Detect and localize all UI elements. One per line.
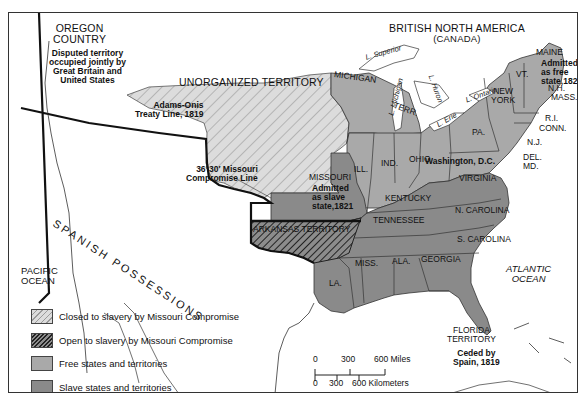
british-line-2: (CANADA) xyxy=(389,34,525,44)
state-label-ala: ALA. xyxy=(392,257,410,266)
missouri-compromise-line-label: 36°30′ Missouri Compromise Line xyxy=(186,165,258,183)
legend-swatch-open xyxy=(31,333,53,348)
washington-dc-label: Washington, D.C. xyxy=(425,157,495,166)
missouri-label: MISSOURI xyxy=(309,173,351,182)
unorganized-territory-label: UNORGANIZED TERRITORY xyxy=(179,77,324,88)
scale-bar: 0 300 600 Miles 0 300 600 Kilometers xyxy=(313,355,433,391)
florida-line-2: TERRITORY xyxy=(447,335,496,344)
state-label-pa: PA. xyxy=(472,128,485,137)
maine-label: MAINE xyxy=(536,48,563,57)
oregon-note: Disputed territory occupied jointly by G… xyxy=(49,49,126,85)
map-legend: Closed to slavery by Missouri Compromise… xyxy=(31,305,239,393)
legend-label: Closed to slavery by Missouri Compromise xyxy=(59,311,239,322)
missouri-note: Admitted as slave state,1821 xyxy=(312,184,353,211)
florida-note-2: Spain, 1819 xyxy=(453,358,500,367)
state-label-conn: CONN. xyxy=(539,124,566,133)
state-label-tennessee: TENNESSEE xyxy=(373,216,425,225)
legend-item-closed: Closed to slavery by Missouri Compromise xyxy=(31,305,239,329)
state-label-nj: N.J. xyxy=(527,138,542,147)
pacific-line-2: OCEAN xyxy=(21,276,58,286)
scale-km-0: 0 xyxy=(313,379,318,388)
state-label-la: LA. xyxy=(329,279,342,288)
maine-note: Admitted as free state,1820 xyxy=(541,59,578,86)
oregon-note-4: United States xyxy=(49,76,126,85)
arkansas-territory-label: ARKANSAS TERRITORY xyxy=(253,225,350,234)
florida-note: Ceded by Spain, 1819 xyxy=(453,349,500,367)
legend-swatch-free xyxy=(31,356,53,371)
state-label-georgia: GEORGIA xyxy=(421,255,461,264)
ny-line-2: YORK xyxy=(491,96,515,105)
adams-onis-2: Treaty Line, 1819 xyxy=(135,110,204,119)
missouri-note-3: state,1821 xyxy=(312,202,353,211)
british-north-america-label: BRITISH NORTH AMERICA (CANADA) xyxy=(389,23,525,44)
oregon-title-2: COUNTRY xyxy=(53,34,106,45)
state-label-vt: VT. xyxy=(516,70,528,79)
legend-swatch-closed xyxy=(31,309,53,324)
atlantic-line-2: OCEAN xyxy=(506,274,551,284)
legend-label: Open to slavery by Missouri Compromise xyxy=(59,335,233,346)
state-label-miss: MISS. xyxy=(355,259,378,268)
state-label-ri: R.I. xyxy=(545,114,558,123)
state-label-virginia: VIRGINIA xyxy=(459,174,496,183)
state-label-s-carolina: S. CAROLINA xyxy=(457,235,511,244)
pacific-ocean-label: PACIFIC OCEAN xyxy=(21,266,58,286)
map-frame: OREGON COUNTRY Disputed territory occupi… xyxy=(8,12,578,393)
compromise-line-2: Compromise Line xyxy=(186,174,258,183)
cuba-island xyxy=(449,381,554,393)
florida-territory-label: FLORIDA TERRITORY xyxy=(447,326,496,344)
legend-item-slave: Slave states and territories xyxy=(31,376,239,394)
state-label-ind: IND. xyxy=(381,159,398,168)
state-label-n-carolina: N. CAROLINA xyxy=(455,206,509,215)
state-label-kentucky: KENTUCKY xyxy=(385,194,431,203)
state-label-md: MD. xyxy=(523,162,539,171)
legend-label: Slave states and territories xyxy=(59,382,171,393)
scale-km-300: 300 xyxy=(329,379,343,388)
gulf-coastline xyxy=(275,303,314,393)
legend-swatch-slave xyxy=(31,380,53,393)
legend-item-free: Free states and territories xyxy=(31,352,239,376)
atlantic-ocean-label: ATLANTIC OCEAN xyxy=(506,264,551,284)
legend-label: Free states and territories xyxy=(59,358,167,369)
state-label-mass: MASS. xyxy=(551,93,577,102)
scale-km-600: 600 Kilometers xyxy=(352,379,409,388)
adams-onis-label: Adams-Onis Treaty Line, 1819 xyxy=(135,101,204,119)
bahamas-islands xyxy=(514,323,571,363)
legend-item-open: Open to slavery by Missouri Compromise xyxy=(31,329,239,353)
state-label-ill: ILL. xyxy=(354,165,368,174)
oregon-country-label: OREGON COUNTRY xyxy=(53,23,106,45)
